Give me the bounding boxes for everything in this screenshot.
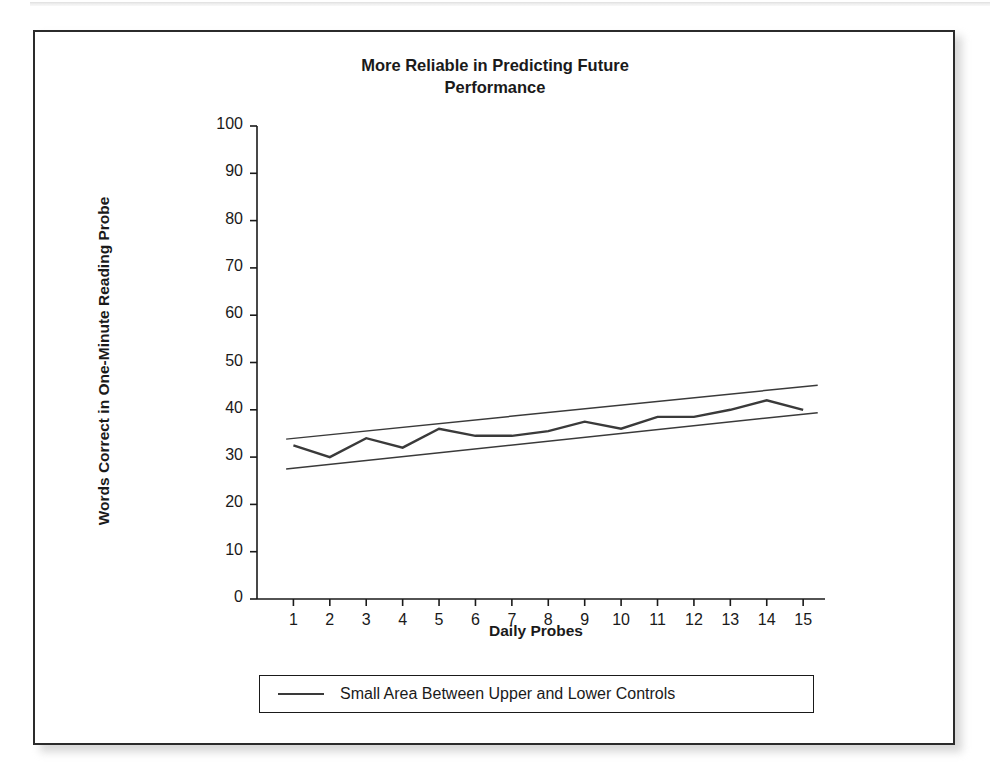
y-tick-label: 90 — [199, 162, 243, 180]
axes-layer — [250, 126, 825, 606]
legend-entry-label: Small Area Between Upper and Lower Contr… — [340, 685, 675, 703]
x-tick-label: 14 — [752, 611, 782, 629]
x-tick-label: 9 — [570, 611, 600, 629]
y-tick-label: 60 — [199, 304, 243, 322]
y-tick-label: 10 — [199, 541, 243, 559]
x-tick-label: 8 — [533, 611, 563, 629]
x-tick-label: 7 — [497, 611, 527, 629]
y-tick-label: 0 — [199, 588, 243, 606]
x-tick-label: 13 — [715, 611, 745, 629]
chart-figure: More Reliable in Predicting Future Perfo… — [33, 30, 955, 745]
y-axis-title: Words Correct in One-Minute Reading Prob… — [95, 151, 113, 571]
x-tick-label: 6 — [460, 611, 490, 629]
y-tick-label: 80 — [199, 210, 243, 228]
x-tick-label: 4 — [388, 611, 418, 629]
x-tick-label: 5 — [424, 611, 454, 629]
plot-canvas — [35, 32, 957, 672]
legend-entry: Small Area Between Upper and Lower Contr… — [260, 676, 813, 712]
x-tick-label: 3 — [351, 611, 381, 629]
x-tick-label: 12 — [679, 611, 709, 629]
y-tick-label: 100 — [199, 115, 243, 133]
plot-area: Words Correct in One-Minute Reading Prob… — [35, 32, 957, 747]
scan-artifact-line — [30, 2, 990, 6]
y-tick-label: 50 — [199, 352, 243, 370]
legend-line-swatch-icon — [278, 693, 324, 695]
x-tick-label: 10 — [606, 611, 636, 629]
control-limit-line — [286, 413, 818, 469]
x-tick-label: 1 — [278, 611, 308, 629]
data-series-line — [293, 400, 803, 457]
y-tick-label: 20 — [199, 493, 243, 511]
y-tick-label: 70 — [199, 257, 243, 275]
x-tick-label: 11 — [643, 611, 673, 629]
chart-legend: Small Area Between Upper and Lower Contr… — [259, 675, 814, 713]
y-tick-label: 40 — [199, 399, 243, 417]
x-tick-label: 2 — [315, 611, 345, 629]
y-tick-label: 30 — [199, 446, 243, 464]
x-tick-label: 15 — [788, 611, 818, 629]
series-layer — [286, 385, 818, 469]
